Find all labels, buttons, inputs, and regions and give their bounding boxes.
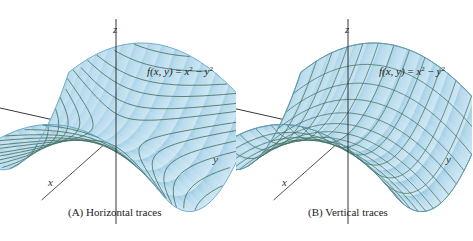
term2-exponent: 2 xyxy=(209,65,213,73)
function-lhs: f(x, y) xyxy=(379,65,405,77)
equals-sign: = xyxy=(405,65,417,77)
caption-a: (A) Horizontal traces xyxy=(68,207,161,218)
function-lhs: f(x, y) xyxy=(147,65,173,77)
x-axis-label: x xyxy=(48,177,53,188)
panel-vertical-traces: z y x f(x, y) = x2 − y2 (B) Vertical tra… xyxy=(236,0,472,241)
minus-sign: − xyxy=(425,65,437,77)
z-axis-label: z xyxy=(345,24,349,35)
panel-horizontal-traces: z y x f(x, y) = x2 − y2 (A) Horizontal t… xyxy=(0,0,236,241)
minus-sign: − xyxy=(193,65,205,77)
equals-sign: = xyxy=(173,65,185,77)
saddle-surface-horizontal-traces xyxy=(0,0,236,241)
z-axis-label: z xyxy=(113,24,117,35)
saddle-surface-vertical-traces xyxy=(236,0,472,241)
term2-exponent: 2 xyxy=(441,65,445,73)
y-axis-label: y xyxy=(213,154,218,165)
function-label: f(x, y) = x2 − y2 xyxy=(147,66,213,77)
y-axis-label: y xyxy=(446,154,451,165)
function-label: f(x, y) = x2 − y2 xyxy=(379,66,445,77)
x-axis-label: x xyxy=(282,177,287,188)
caption-b: (B) Vertical traces xyxy=(308,207,388,218)
